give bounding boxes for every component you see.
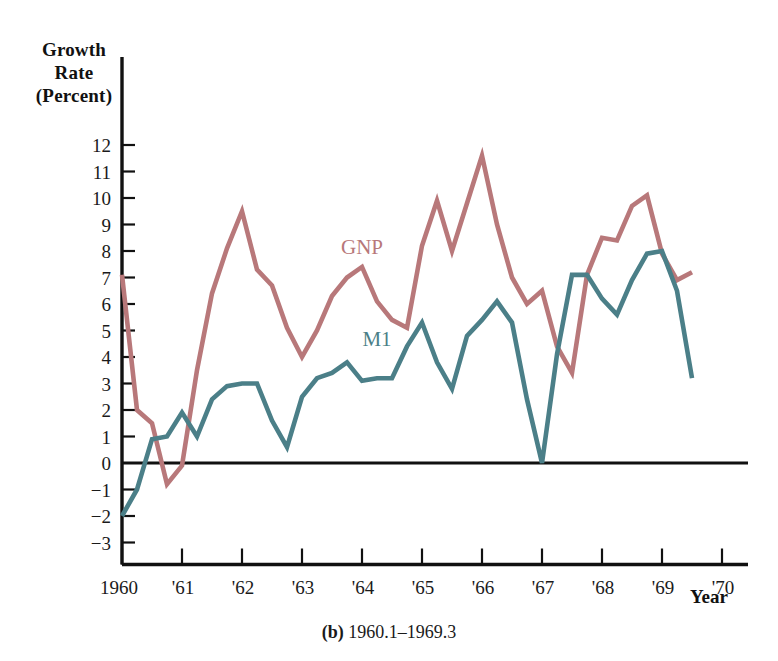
y-tick-label: 2 [102,400,112,421]
x-tick-label: '61 [172,577,194,598]
x-tick-label: 1960 [100,577,138,598]
caption-label: (b) [322,622,344,642]
y-tick-label: −3 [91,533,111,554]
series-annotations: GNPM1 [341,235,392,352]
series-label-gnp: GNP [341,235,383,259]
y-tick-label: 4 [102,347,112,368]
caption-text: 1960.1–1969.3 [348,622,456,642]
x-tick-label: '62 [232,577,254,598]
series-line-m1 [122,251,692,516]
y-tick-label: −2 [91,506,111,527]
y-tick-label: 0 [102,453,112,474]
y-tick-label: 6 [102,294,112,315]
y-tick-label: 3 [102,374,112,395]
x-tick-label: '68 [592,577,614,598]
x-tick-label: '70 [712,577,734,598]
y-tick-label: 5 [102,321,112,342]
y-tick-label: 10 [92,188,111,209]
x-tick-label: '69 [652,577,674,598]
x-tick-label: '64 [352,577,375,598]
x-tick-label: '65 [412,577,434,598]
y-tick-label: 1 [102,427,112,448]
figure-caption: (b) 1960.1–1969.3 [0,622,778,643]
axis-lines [122,57,748,565]
y-tick-label: 7 [102,268,112,289]
y-tick-label: −1 [91,480,111,501]
y-tick-label: 11 [93,162,111,183]
x-tick-label: '63 [292,577,314,598]
series-label-m1: M1 [362,327,391,351]
line-chart-plot: 1211109876543210−1−2−3 1960'61'62'63'64'… [0,0,778,661]
y-tick-label: 12 [92,135,111,156]
y-tick-label: 9 [102,215,112,236]
x-axis-ticks: 1960'61'62'63'64'65'66'67'68'69'70 [100,549,734,598]
x-tick-label: '66 [472,577,494,598]
x-tick-label: '67 [532,577,554,598]
series-line-gnp [122,156,692,485]
figure-panel-b: Growth Rate (Percent) Year 1211109876543… [0,0,778,661]
y-tick-label: 8 [102,241,112,262]
